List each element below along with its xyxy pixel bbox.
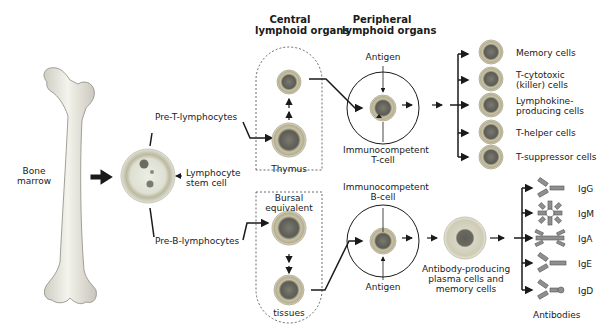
plasma-cells-label: Antibody-producing plasma cells and memo… bbox=[418, 264, 514, 294]
immunocompetent-t-cell-label: Immunocompetent T-cell bbox=[343, 145, 423, 165]
label-line: marrow bbox=[14, 176, 54, 186]
header-line: lymphoid organs bbox=[255, 25, 325, 36]
bone-marrow-label: Bone marrow bbox=[14, 166, 54, 186]
label-line: stem cell bbox=[186, 178, 241, 188]
label-line: equivalent bbox=[256, 203, 322, 213]
header-central-lymphoid-organs: Central lymphoid organs bbox=[255, 14, 325, 36]
antibody-iga-label: IgA bbox=[578, 234, 593, 244]
label-line: T-suppressor cells bbox=[516, 152, 596, 162]
header-line: lymphoid organs bbox=[342, 25, 422, 36]
label-line: producing cells bbox=[516, 106, 584, 116]
pre-t-lymphocytes-label: Pre-T-lymphocytes bbox=[155, 112, 237, 122]
label-line: T-helper cells bbox=[516, 128, 576, 138]
tissues-label: tissues bbox=[256, 308, 322, 318]
header-line: Central bbox=[255, 14, 325, 25]
label-line: Antibody-producing bbox=[418, 264, 514, 274]
label-line: Lymphokine- bbox=[516, 96, 584, 106]
antibody-igg-label: IgG bbox=[578, 184, 593, 194]
antibody-igd-label: IgD bbox=[578, 286, 593, 296]
antibody-ige-label: IgE bbox=[578, 259, 592, 269]
stem-cell-label: Lymphocyte stem cell bbox=[186, 168, 241, 188]
iga-antibody-icon bbox=[535, 229, 565, 246]
t-output-helper-cells: T-helper cells bbox=[516, 128, 576, 138]
t-antigen-label: Antigen bbox=[353, 52, 413, 62]
stem-cell-illustration bbox=[121, 149, 175, 203]
label-line: Immunocompetent bbox=[343, 145, 423, 155]
header-peripheral-lymphoid-organs: Peripheral lymphoid organs bbox=[342, 14, 422, 36]
ige-antibody-icon bbox=[538, 252, 566, 272]
label-line: Memory cells bbox=[516, 48, 576, 58]
immunocompetent-b-cell-label: Immunocompetent B-cell bbox=[343, 182, 423, 202]
header-line: Peripheral bbox=[342, 14, 422, 25]
plasma-cell-illustration bbox=[444, 217, 486, 259]
t-output-suppressor-cells: T-suppressor cells bbox=[516, 152, 596, 162]
label-line: T-cytotoxic bbox=[516, 70, 568, 80]
label-line: Bursal bbox=[256, 193, 322, 203]
pre-b-lymphocytes-label: Pre-B-lymphocytes bbox=[155, 236, 239, 246]
label-line: Immunocompetent bbox=[343, 182, 423, 192]
bursal-equivalent-label: Bursal equivalent bbox=[256, 193, 322, 213]
antibody-igm-label: IgM bbox=[578, 209, 594, 219]
label-line: B-cell bbox=[343, 192, 423, 202]
t-output-cytotoxic-cells: T-cytotoxic (killer) cells bbox=[516, 70, 568, 90]
label-line: (killer) cells bbox=[516, 80, 568, 90]
thymus-label: Thymus bbox=[256, 164, 322, 174]
bone-to-stem-arrow bbox=[92, 172, 110, 182]
label-line: T-cell bbox=[343, 155, 423, 165]
igm-antibody-icon bbox=[538, 201, 562, 225]
label-line: Bone bbox=[14, 166, 54, 176]
t-output-memory-cells: Memory cells bbox=[516, 48, 576, 58]
label-line: Lymphocyte bbox=[186, 168, 241, 178]
igd-antibody-icon bbox=[538, 279, 564, 299]
label-line: plasma cells and bbox=[418, 274, 514, 284]
t-output-lymphokine-cells: Lymphokine- producing cells bbox=[516, 96, 584, 116]
igg-antibody-icon bbox=[538, 177, 564, 197]
b-antigen-label: Antigen bbox=[353, 282, 413, 292]
label-line: memory cells bbox=[418, 284, 514, 294]
antibodies-caption: Antibodies bbox=[533, 310, 581, 320]
